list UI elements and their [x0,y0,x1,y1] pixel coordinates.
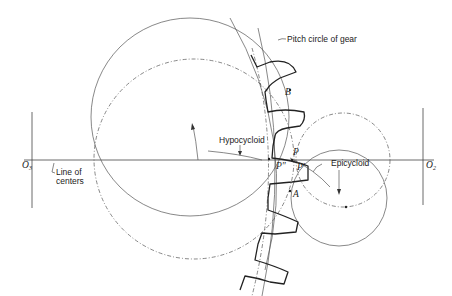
epicycloid-label: Epicycloid [331,158,370,168]
point-b-label: B [285,87,291,97]
pitch-circle-label: Pitch circle of gear [287,34,357,44]
hypocycloid-label: Hypocycloid [219,135,265,145]
arrow-up-icon [191,123,195,130]
line-of-centers-label-2: centers [56,176,84,186]
diagram-svg: Pitch circle of gear Hypocycloid Epicycl… [0,0,452,296]
epicycloid-center-dot [345,206,347,208]
center-o3-label: O3 [22,160,32,171]
rotation-arrow-leader [193,126,198,160]
line-of-centers-leader [52,163,55,173]
center-o2-label: O2 [426,160,436,171]
point-p-double-prime-dot [268,158,270,160]
point-p-dot [291,159,293,161]
gear-diagram: Pitch circle of gear Hypocycloid Epicycl… [0,0,452,296]
hypocycloid-circle-initial [94,59,294,259]
gear-tooth-profile [240,55,308,290]
epicycloid-leader [313,164,322,172]
point-a-dot [289,190,291,192]
hypocycloid-curve [208,151,262,160]
hypocycloid-generating-circle [91,18,289,216]
point-p-double-prime-label: P″ [275,161,287,171]
point-p-label: P [292,147,299,157]
arrow-down-icon [337,189,341,195]
pitch-circle-leader [278,39,286,40]
point-p-prime-label: P′ [296,162,306,172]
point-a-label: A [292,189,299,199]
